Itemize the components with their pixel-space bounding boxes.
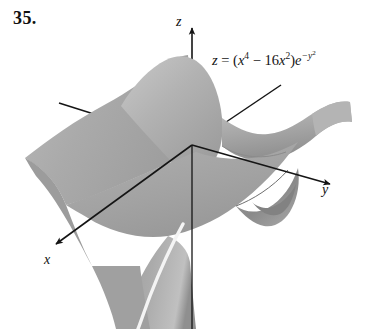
equation-exponent-minus-y: −y2 bbox=[302, 51, 316, 61]
equation-label: z = (x4 − 16x2)e−y2 bbox=[212, 52, 316, 69]
surface-right-sheet bbox=[312, 102, 352, 136]
equation-exp-y-squared: 2 bbox=[312, 49, 316, 57]
axis-label-y: y bbox=[322, 182, 328, 198]
axis-label-x: x bbox=[44, 252, 50, 268]
surface-plot-graphic bbox=[0, 0, 373, 329]
axis-label-z: z bbox=[176, 14, 181, 30]
equation-minus-sixteen: − 16 bbox=[249, 52, 279, 68]
equation-equals: = ( bbox=[218, 52, 238, 68]
equation-exp-minus-y-text: −y bbox=[302, 51, 313, 61]
surface-mesh bbox=[25, 55, 352, 329]
surface-plot-figure: 35. bbox=[0, 0, 373, 329]
